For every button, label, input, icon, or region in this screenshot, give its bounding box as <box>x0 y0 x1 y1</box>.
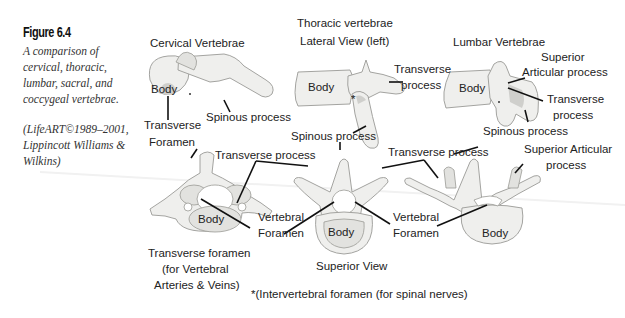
label-thoracic-transverse: Transverse <box>394 63 451 75</box>
label-thoracic-spinous: Spinous process <box>291 130 376 142</box>
label-transverse-foramen-2: (for Vertebral <box>162 263 228 275</box>
label-transverse-foramen-3: Arteries & Veins) <box>154 279 240 291</box>
label-thoracic-superior-body: Body <box>328 226 354 238</box>
label-cervical-foramen: Foramen <box>149 136 195 148</box>
label-foramen-2: Foramen <box>393 227 439 239</box>
label-vertebral-1: Vertebral <box>258 211 304 223</box>
vertebrae-diagram: * <box>0 0 625 318</box>
label-cervical-spinous: Spinous process <box>206 111 291 123</box>
heading-thoracic-line2: Lateral View (left) <box>300 35 389 47</box>
heading-thoracic-line1: Thoracic vertebrae <box>297 17 393 29</box>
label-lumbar-superior-body: Body <box>482 227 508 239</box>
label-lumbar-body: Body <box>459 82 485 94</box>
label-foramen-1: Foramen <box>258 227 304 239</box>
heading-cervical: Cervical Vertebrae <box>150 37 245 49</box>
label-lumbar-articular: Articular process <box>522 66 608 78</box>
heading-lumbar: Lumbar Vertebrae <box>453 36 545 48</box>
label-cervical-superior-body: Body <box>198 213 224 225</box>
label-superior-view: Superior View <box>316 260 388 272</box>
footnote: *(Intervertebral foramen (for spinal ner… <box>251 288 468 300</box>
label-lumbar-superior: Superior <box>541 51 585 63</box>
label-superior-articular: Superior Articular <box>524 143 612 155</box>
label-transverse-process-right: Transverse process <box>388 146 489 158</box>
label-transverse-process-left: Transverse process <box>215 149 316 161</box>
label-lumbar-spinous: Spinous process <box>483 125 568 137</box>
asterisk-mark: * <box>351 93 356 105</box>
label-lumbar-process: process <box>553 109 594 121</box>
label-transverse-foramen-1: Transverse foramen <box>148 247 250 259</box>
label-cervical-body: Body <box>151 83 177 95</box>
label-thoracic-body: Body <box>308 81 334 93</box>
label-cervical-transverse: Transverse <box>144 119 201 131</box>
label-lumbar-transverse: Transverse <box>547 93 604 105</box>
label-thoracic-process: process <box>401 79 442 91</box>
label-superior-articular-process: process <box>546 159 587 171</box>
thoracic-superior-illustration <box>294 159 388 254</box>
label-vertebral-2: Vertebral <box>393 211 439 223</box>
